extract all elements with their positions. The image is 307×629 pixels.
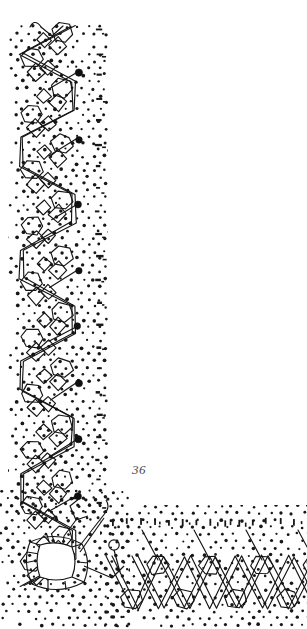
pricking-dot xyxy=(88,217,91,220)
pricking-dot xyxy=(105,541,107,543)
pricking-dot xyxy=(253,602,256,605)
pricking-dot xyxy=(104,45,107,48)
pricking-dot xyxy=(17,373,20,376)
pricking-dot xyxy=(84,624,87,627)
pricking-dot xyxy=(72,623,75,626)
pricking-dot xyxy=(75,66,77,68)
pricking-dot xyxy=(98,408,100,410)
pricking-dot xyxy=(271,512,273,514)
pricking-dot xyxy=(71,454,74,457)
edge-tick xyxy=(217,522,219,526)
pricking-dot xyxy=(93,292,96,295)
pricking-dot xyxy=(75,256,79,260)
pricking-dot xyxy=(55,202,57,204)
pricking-dot xyxy=(98,299,100,301)
pricking-dot xyxy=(87,326,89,328)
edge-tick xyxy=(159,522,161,525)
pricking-dot xyxy=(76,26,78,28)
edge-tick xyxy=(96,98,102,100)
pricking-dot xyxy=(229,505,232,508)
pricking-dot xyxy=(82,32,85,35)
pricking-dot xyxy=(86,162,89,165)
pricking-dot xyxy=(21,352,24,355)
pricking-dot xyxy=(192,610,195,613)
pricking-dot xyxy=(82,568,86,572)
pricking-dot xyxy=(86,447,89,450)
pricking-dot xyxy=(54,189,57,192)
pricking-dot xyxy=(207,533,210,536)
pricking-dot xyxy=(37,169,40,172)
pricking-dot xyxy=(91,483,93,485)
pricking-dot xyxy=(22,574,25,577)
pricking-dot xyxy=(94,305,97,308)
pricking-dot xyxy=(22,436,24,438)
pricking-dot xyxy=(93,540,96,543)
pricking-dot xyxy=(103,169,106,172)
pricking-dot xyxy=(36,183,39,186)
pricking-dot xyxy=(45,108,47,110)
pricking-dot xyxy=(48,415,50,417)
pricking-dot xyxy=(42,218,44,220)
pricking-dot xyxy=(33,546,35,548)
pricking-dot xyxy=(198,603,201,606)
pricking-dot xyxy=(32,108,34,110)
pricking-dot xyxy=(11,603,13,605)
pricking-dot xyxy=(103,224,106,227)
edge-tick xyxy=(102,304,104,306)
pricking-dot xyxy=(99,489,102,492)
pricking-dot xyxy=(103,72,106,75)
pricking-dot xyxy=(48,386,51,389)
pricking-dot xyxy=(10,408,13,411)
pricking-dot xyxy=(28,154,31,157)
pricking-dot xyxy=(38,595,41,598)
pricking-dot xyxy=(22,190,26,194)
pricking-dot xyxy=(26,209,29,212)
pricking-dot xyxy=(6,582,9,585)
pricking-dot xyxy=(71,169,75,173)
pricking-dot xyxy=(142,518,145,521)
pricking-dot xyxy=(208,505,210,507)
pricking-dot xyxy=(103,358,107,362)
pricking-dot xyxy=(48,333,51,336)
pricking-dot xyxy=(44,618,46,620)
pricking-dot xyxy=(54,243,58,247)
pricking-dot xyxy=(73,526,76,529)
pricking-dot xyxy=(275,559,279,563)
pricking-dot xyxy=(9,204,11,206)
pricking-dot xyxy=(117,526,120,529)
pricking-dot xyxy=(16,292,20,296)
pricking-dot xyxy=(15,142,18,145)
pricking-dot xyxy=(270,525,272,527)
pricking-dot xyxy=(290,609,294,613)
pricking-dot xyxy=(11,519,14,522)
pricking-dot xyxy=(105,128,108,131)
edge-tick xyxy=(96,346,101,349)
edge-tick xyxy=(103,101,106,103)
pricking-dot xyxy=(199,617,201,619)
pricking-dot xyxy=(257,568,260,571)
pricking-dot xyxy=(115,609,118,612)
pricking-dot xyxy=(92,400,94,402)
pricking-dot xyxy=(77,505,80,508)
pricking-dot xyxy=(71,60,75,64)
pricking-dot xyxy=(82,373,85,376)
pricking-dot xyxy=(203,623,206,626)
pricking-dot xyxy=(91,456,94,459)
pricking-dot xyxy=(66,230,69,233)
pricking-dot xyxy=(23,532,25,534)
pricking-dot xyxy=(98,271,101,274)
pricking-dot xyxy=(182,624,185,627)
pricking-dot xyxy=(181,610,184,613)
pricking-dot xyxy=(20,408,23,411)
pricking-dot xyxy=(152,533,155,536)
pricking-dot xyxy=(93,428,96,431)
pricking-dot xyxy=(186,533,188,535)
pricking-dot xyxy=(16,304,20,308)
pricking-dot xyxy=(83,196,85,198)
pricking-dot xyxy=(92,45,95,48)
pricking-dot xyxy=(54,257,57,260)
pricking-dot xyxy=(27,222,30,225)
pricking-dot xyxy=(15,101,18,104)
pricking-dot xyxy=(58,360,61,363)
pricking-dot xyxy=(104,142,107,145)
